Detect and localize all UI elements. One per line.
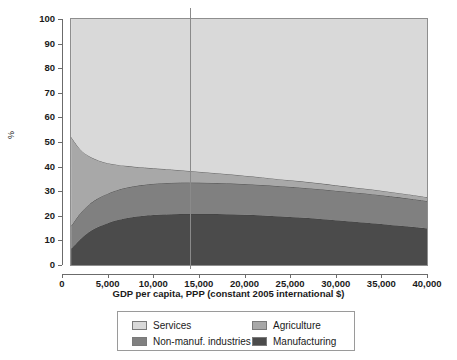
x-tick-mark <box>381 274 382 278</box>
legend-item[interactable]: Services <box>132 320 191 331</box>
legend-label: Non-manuf. industries <box>153 336 251 347</box>
chart-figure: % 0102030405060708090100 05,00010,00015,… <box>0 0 457 360</box>
x-axis-title: GDP per capita, PPP (constant 2005 inter… <box>0 288 457 299</box>
legend-item[interactable]: Agriculture <box>252 320 321 331</box>
legend-item[interactable]: Manufacturing <box>252 336 336 347</box>
x-tick-mark <box>108 274 109 278</box>
legend: ServicesAgricultureNon-manuf. industries… <box>117 311 355 351</box>
legend-swatch-icon <box>132 321 147 330</box>
reference-line <box>190 8 191 269</box>
x-tick-mark <box>245 274 246 278</box>
x-tick-mark <box>62 274 63 278</box>
legend-label: Agriculture <box>273 320 321 331</box>
legend-label: Manufacturing <box>273 336 336 347</box>
stacked-area-series <box>0 0 457 360</box>
x-tick-mark <box>427 274 428 278</box>
x-tick-mark <box>153 274 154 278</box>
legend-swatch-icon <box>132 337 147 346</box>
legend-label: Services <box>153 320 191 331</box>
x-tick-mark <box>336 274 337 278</box>
x-tick-mark <box>290 274 291 278</box>
legend-swatch-icon <box>252 321 267 330</box>
legend-item[interactable]: Non-manuf. industries <box>132 336 251 347</box>
legend-swatch-icon <box>252 337 267 346</box>
x-tick-mark <box>199 274 200 278</box>
